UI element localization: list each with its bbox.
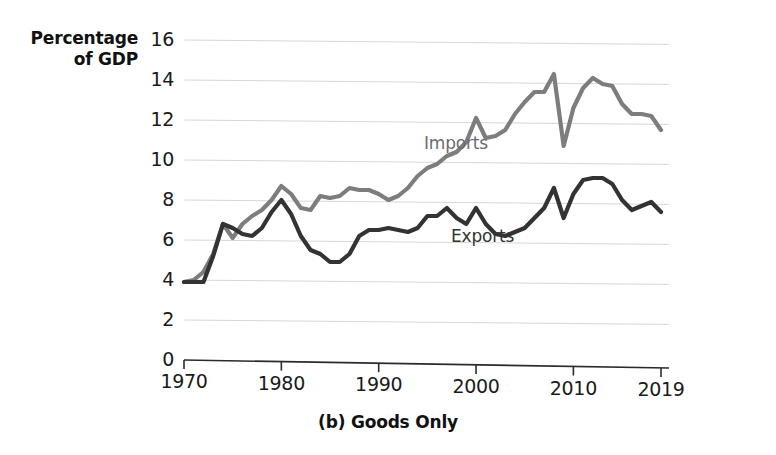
y-axis-tick-label: 0 (140, 350, 174, 369)
x-axis-line (184, 360, 669, 368)
y-axis-tick-label: 8 (140, 190, 174, 209)
gridline (184, 280, 669, 284)
y-axis-tick-label: 12 (140, 110, 174, 129)
y-axis-tick-label: 10 (140, 150, 174, 169)
y-axis-tick-label: 6 (140, 230, 174, 249)
gridline (184, 160, 669, 164)
series-line-exports (184, 178, 661, 282)
x-axis-tick-label: 2010 (538, 379, 608, 398)
gridline (184, 320, 669, 324)
x-axis-tick-label: 1970 (149, 372, 219, 391)
gridline (184, 200, 669, 204)
gridline (184, 40, 669, 44)
series-label-exports: Exports (451, 228, 514, 245)
y-axis-tick-label: 4 (140, 270, 174, 289)
x-axis-tick-label: 2000 (441, 377, 511, 396)
gridline (184, 120, 669, 124)
series-paths (184, 74, 661, 282)
y-axis-title: Percentage of GDP (18, 28, 138, 70)
y-axis-title-line1: Percentage (18, 28, 138, 49)
y-axis-tick-label: 2 (140, 310, 174, 329)
y-axis-tick-label: 16 (140, 30, 174, 49)
y-axis-tick-label: 14 (140, 70, 174, 89)
chart-figure: Percentage of GDP 1614121086420 19701980… (0, 0, 776, 455)
y-axis-title-line2: of GDP (18, 49, 138, 70)
gridline (184, 240, 669, 244)
x-axis-tick-label: 1980 (246, 374, 316, 393)
x-axis-tick-label: 2019 (626, 380, 696, 399)
series-label-imports: Imports (424, 135, 488, 152)
figure-caption: (b) Goods Only (0, 412, 776, 432)
gridlines (184, 40, 669, 324)
x-axis-tick-label: 1990 (344, 375, 414, 394)
